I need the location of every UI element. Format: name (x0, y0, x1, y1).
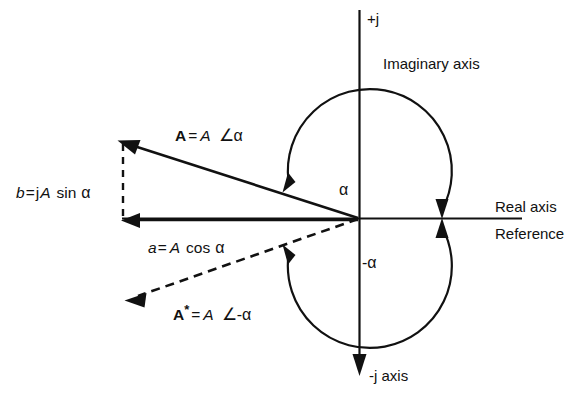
phasor-a-label-group: A=A∠α (175, 126, 243, 145)
imaginary-component-label: b=jAsinα (16, 184, 91, 201)
imaginary-negative-label: -j axis (369, 367, 408, 384)
phasor-a-line (131, 145, 358, 218)
phasor-diagram-canvas: +j Imaginary axis Real axis Reference -j… (0, 0, 583, 404)
component-projections-group (121, 144, 358, 228)
negative-angle-arc-start-arrowhead (436, 218, 449, 238)
phasor-a-arrowhead (118, 140, 141, 155)
phasor-a-conjugate-label-angle-value: -α (237, 306, 252, 323)
phasor-a-conjugate-label-magnitude: A (202, 306, 213, 323)
imaginary-component-angle: α (81, 184, 90, 201)
phasor-a-label-angle-symbol: ∠ (219, 126, 234, 145)
negative-j-arrowhead (353, 354, 367, 376)
negative-angle-arc (288, 227, 452, 348)
imaginary-component-label-group: b=jAsinα (16, 184, 91, 201)
negative-angle-arc-arrowhead (283, 245, 296, 265)
positive-angle-arc-arrowhead (283, 173, 296, 193)
phasor-a-vector (118, 140, 359, 218)
phasor-a-conjugate-label-equals: = (191, 306, 200, 323)
phasor-a-conjugate-label-star: * (184, 302, 190, 317)
real-reference-label: Reference (495, 225, 564, 242)
phasor-a-label-angle-value: α (234, 127, 243, 144)
real-component-trig: cos (186, 239, 210, 256)
real-axis-label: Real axis (495, 198, 557, 215)
phasor-a-conjugate-vector (125, 219, 359, 308)
real-component-magnitude: A (169, 239, 180, 256)
phasor-a-label: A=A∠α (175, 126, 243, 145)
positive-angle-arc (288, 89, 452, 210)
positive-angle-label: α (339, 181, 348, 198)
real-component-angle: α (215, 239, 224, 256)
phasor-diagram: +j Imaginary axis Real axis Reference -j… (0, 0, 583, 404)
imaginary-component-equals: = (26, 184, 35, 201)
phasor-a-conjugate-line (138, 219, 358, 296)
phasor-a-conjugate-arrowhead (125, 293, 147, 308)
imaginary-axis-label: Imaginary axis (383, 55, 480, 72)
imaginary-component-j: j (35, 184, 39, 201)
imaginary-component-symbol: b (16, 184, 25, 201)
real-component-symbol: a (148, 239, 157, 256)
phasor-a-conjugate-label-group: A*=A∠-α (173, 302, 251, 324)
phasor-a-conjugate-label-angle-symbol: ∠ (222, 305, 237, 324)
positive-angle-arc-start-arrowhead (436, 199, 449, 219)
phasor-a-label-equals: = (188, 127, 197, 144)
phasor-a-conjugate-label-bold: A (173, 306, 184, 323)
phasor-a-label-bold: A (175, 127, 186, 144)
negative-angle-label: -α (362, 254, 377, 271)
real-component-equals: = (158, 239, 167, 256)
imaginary-positive-label: +j (367, 10, 379, 27)
imaginary-component-trig: sin (56, 184, 76, 201)
phasor-a-label-magnitude: A (199, 127, 210, 144)
real-component-label: a=Acosα (148, 239, 224, 256)
phasor-a-conjugate-label: A*=A∠-α (173, 302, 251, 324)
imaginary-component-magnitude: A (39, 184, 50, 201)
real-component-label-group: a=Acosα (148, 239, 224, 256)
